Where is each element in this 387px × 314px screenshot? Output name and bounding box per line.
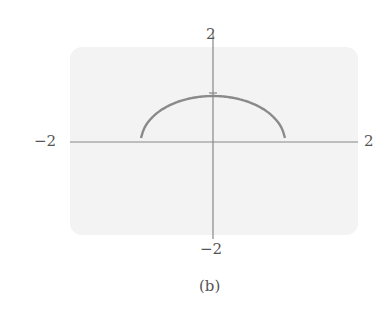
- y-min-label: −2: [200, 242, 222, 257]
- x-max-label: 2: [364, 134, 374, 149]
- y-max-label: 2: [206, 27, 216, 42]
- x-min-label: −2: [34, 134, 56, 149]
- figure-caption: (b): [199, 279, 220, 294]
- plot-svg: [0, 0, 387, 314]
